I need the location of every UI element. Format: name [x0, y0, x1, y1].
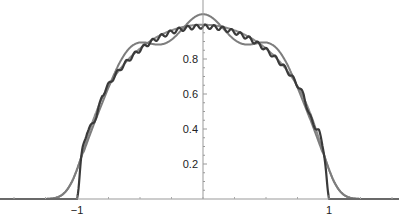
y-tick-label: 0.8 [183, 53, 198, 65]
plot-area: −11 0.20.40.60.8 [0, 0, 399, 221]
curves [0, 14, 399, 199]
x-tick-label: −1 [71, 204, 84, 216]
oscillating-curve [0, 14, 399, 199]
y-tick-label: 0.6 [183, 88, 198, 100]
chart: −11 0.20.40.60.8 [0, 0, 399, 221]
x-tick-label: 1 [326, 204, 332, 216]
y-tick-label: 0.4 [183, 123, 198, 135]
y-tick-label: 0.2 [183, 158, 198, 170]
smooth-curve [0, 25, 399, 199]
staircase-curve [0, 25, 399, 199]
